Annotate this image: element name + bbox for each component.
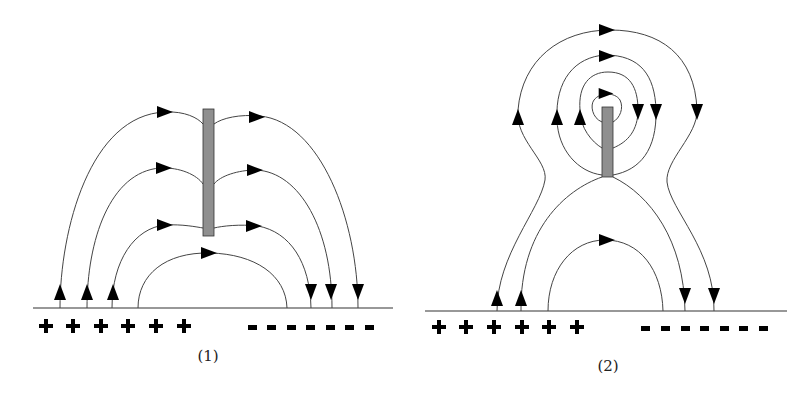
arrow-down-icon (305, 284, 317, 300)
arrow-down-icon (352, 284, 364, 300)
field-line (138, 253, 287, 308)
positive-charges (39, 319, 191, 333)
arrow-down-icon (708, 288, 720, 304)
field-line (613, 177, 685, 311)
arrow-up-icon (107, 284, 119, 300)
arrow-right-icon (157, 219, 173, 231)
arrow-down-icon (632, 104, 644, 120)
arrow-right-icon (157, 106, 173, 118)
arrow-up-icon (491, 290, 503, 306)
arrow-up-icon (81, 284, 93, 300)
arrow-down-icon (650, 104, 662, 120)
arrow-down-icon (691, 104, 703, 120)
field-line (112, 225, 203, 308)
panel-1: (1) (33, 106, 393, 365)
negative-charges (641, 326, 768, 331)
arrow-down-icon (679, 288, 691, 304)
field-line (214, 115, 358, 308)
panel-2: (2) (425, 24, 787, 375)
field-line (60, 112, 203, 308)
arrow-down-icon (325, 284, 337, 300)
arrow-right-icon (249, 111, 265, 123)
arrow-right-icon (247, 164, 263, 176)
arrow-right-icon (599, 24, 615, 36)
arrow-right-icon (599, 88, 614, 99)
panel-label-1: (1) (197, 347, 218, 365)
positive-charges (432, 320, 584, 334)
field-line (521, 177, 602, 311)
conducting-rod (203, 109, 214, 236)
arrow-up-icon (574, 109, 586, 125)
arrow-right-icon (599, 50, 615, 62)
arrow-right-icon (201, 247, 217, 259)
panel-label-2: (2) (597, 357, 618, 375)
arrow-up-icon (515, 290, 527, 306)
arrow-up-icon (54, 284, 66, 300)
negative-charges (248, 325, 374, 330)
arrow-right-icon (156, 162, 172, 174)
arrow-right-icon (599, 234, 615, 246)
field-line (548, 240, 663, 311)
conducting-rod (602, 107, 613, 177)
field-lines-diagram: (1) (0, 0, 810, 394)
arrow-up-icon (512, 109, 524, 125)
arrow-up-icon (551, 109, 563, 125)
arrow-right-icon (246, 220, 262, 232)
field-line (87, 168, 203, 308)
